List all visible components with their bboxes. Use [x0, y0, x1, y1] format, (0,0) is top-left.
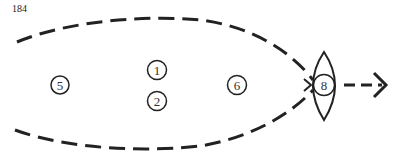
svg-text:1: 1	[154, 63, 161, 78]
node-8: 8	[314, 75, 335, 96]
node-6: 6	[228, 76, 247, 95]
svg-text:5: 5	[57, 78, 64, 93]
svg-text:6: 6	[234, 78, 241, 93]
diagram-svg: 5 1 2 6 8	[0, 0, 394, 162]
svg-text:8: 8	[321, 78, 328, 93]
entry-arrowhead-icon	[304, 79, 311, 91]
diagram-canvas: 184 5 1 2 6 8	[0, 0, 394, 162]
svg-text:2: 2	[154, 94, 161, 109]
node-1: 1	[148, 61, 167, 80]
node-2: 2	[148, 92, 167, 111]
node-5: 5	[51, 76, 69, 94]
